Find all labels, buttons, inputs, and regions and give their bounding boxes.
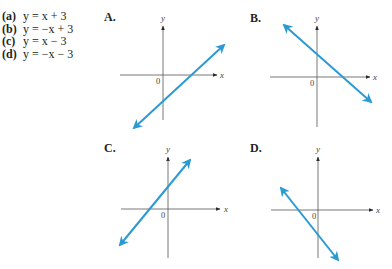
x-axis-label: x — [223, 204, 228, 214]
y-axis-label: y — [315, 144, 320, 154]
graphs-canvas: A. x y 0 B. x y 0 C. x y 0 D. x y 0 — [0, 0, 392, 269]
panel-label-a: A. — [104, 10, 116, 24]
origin-label: 0 — [161, 210, 165, 220]
line-plot — [120, 160, 190, 245]
x-axis-label: x — [219, 70, 224, 80]
panel-label-c: C. — [104, 141, 116, 155]
x-axis-label: x — [372, 72, 377, 82]
origin-label: 0 — [310, 78, 314, 88]
panel-label-b: B. — [250, 11, 261, 25]
origin-label: 0 — [156, 76, 160, 86]
graph-a: A. x y 0 — [104, 10, 224, 128]
graph-c: C. x y 0 — [104, 141, 228, 258]
origin-label: 0 — [312, 211, 316, 221]
graph-d: D. x y 0 — [250, 141, 380, 260]
y-axis-label: y — [160, 13, 165, 23]
x-axis-label: x — [375, 205, 380, 215]
line-plot — [134, 45, 224, 128]
y-axis-label: y — [165, 144, 170, 154]
graph-b: B. x y 0 — [250, 11, 377, 127]
line-plot — [284, 25, 371, 102]
y-axis-label: y — [314, 13, 319, 23]
panel-label-d: D. — [250, 141, 262, 155]
line-plot — [281, 188, 338, 260]
